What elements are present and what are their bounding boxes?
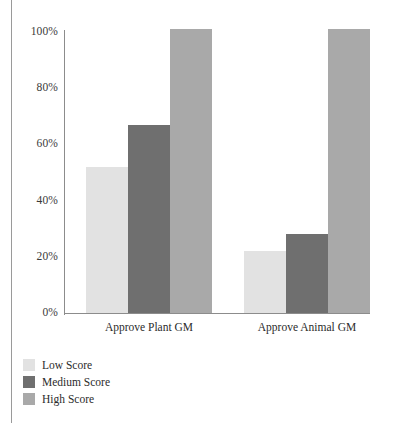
clipped-caption-text: [30, 0, 290, 7]
y-axis-tick-40: 40%: [12, 195, 58, 207]
bar-approve-animal-gm-medium-score: [286, 234, 328, 313]
legend-item-medium-score: Medium Score: [23, 373, 110, 390]
category-label-approve-animal-gm: Approve Animal GM: [227, 321, 387, 334]
legend-swatch-icon: [23, 376, 35, 388]
bar-approve-plant-gm-low-score: [86, 167, 128, 313]
bar-approve-animal-gm-low-score: [244, 251, 286, 313]
legend-swatch-icon: [23, 393, 35, 405]
category-label-approve-plant-gm: Approve Plant GM: [69, 321, 229, 334]
plot-area: [64, 32, 369, 313]
x-axis-line: [64, 313, 370, 314]
legend-item-low-score: Low Score: [23, 356, 110, 373]
bar-approve-plant-gm-medium-score: [128, 125, 170, 313]
y-axis-tick-80: 80%: [12, 82, 58, 94]
legend-swatch-icon: [23, 359, 35, 371]
legend-label: High Score: [42, 393, 94, 405]
bar-approve-plant-gm-high-score: [170, 29, 212, 313]
y-axis-tick-20: 20%: [12, 251, 58, 263]
legend-item-high-score: High Score: [23, 390, 110, 407]
chart-figure: 0%20%40%60%80%100% Approve Plant GMAppro…: [0, 0, 419, 423]
legend-label: Low Score: [42, 359, 92, 371]
y-axis-tick-0: 0%: [12, 307, 58, 319]
bar-approve-animal-gm-high-score: [328, 29, 370, 313]
legend-label: Medium Score: [42, 376, 110, 388]
y-axis-tick-100: 100%: [12, 26, 58, 38]
chart-legend: Low ScoreMedium ScoreHigh Score: [23, 356, 110, 407]
y-axis-tick-60: 60%: [12, 138, 58, 150]
page-border-left: [11, 0, 12, 423]
